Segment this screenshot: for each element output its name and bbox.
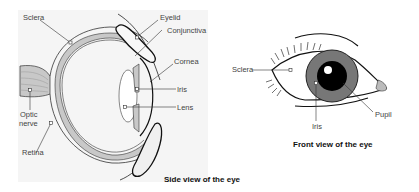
label-optic-nerve-line1: Optic: [20, 110, 38, 119]
caption-side-view: Side view of the eye: [164, 175, 241, 184]
label-pupil: Pupil: [375, 110, 392, 119]
eye-diagram: Sclera Optic nerve Retina Eyelid Conjunc…: [0, 0, 419, 192]
label-iris-front: Iris: [312, 122, 322, 131]
label-conjunctiva: Conjunctiva: [167, 26, 207, 35]
label-sclera-front: Sclera: [232, 65, 254, 74]
label-retina: Retina: [22, 148, 45, 157]
pupil-highlight: [324, 66, 332, 74]
label-sclera-side: Sclera: [23, 13, 45, 22]
label-cornea: Cornea: [174, 57, 199, 66]
label-lens: Lens: [177, 103, 194, 112]
label-iris-side: Iris: [177, 85, 187, 94]
label-optic-nerve-line2: nerve: [19, 119, 38, 128]
caption-front-view: Front view of the eye: [293, 140, 373, 149]
pupil-shape: [317, 61, 347, 91]
front-view-eye: Sclera Iris Pupil Front view of the eye: [232, 34, 392, 149]
label-eyelid: Eyelid: [160, 13, 180, 22]
